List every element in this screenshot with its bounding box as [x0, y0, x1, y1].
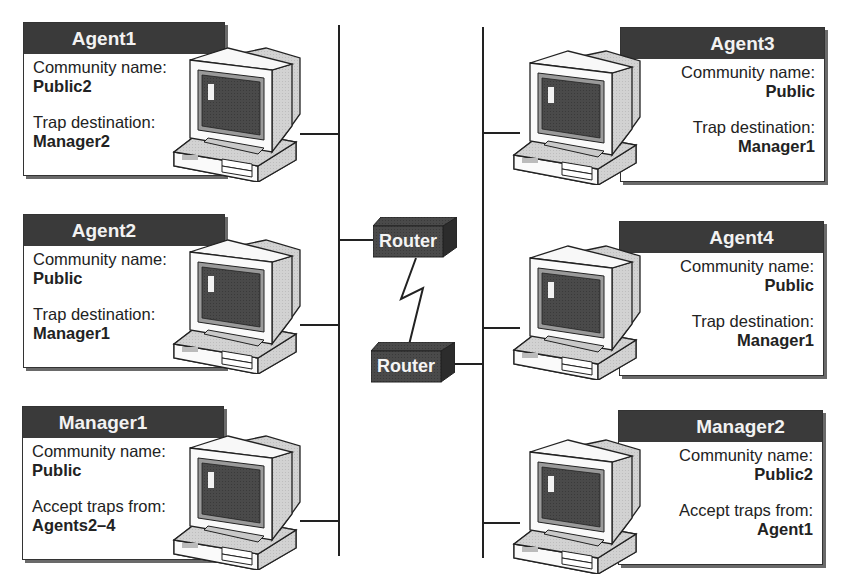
computer-icon: [508, 434, 648, 574]
community-name-value: Public: [630, 82, 815, 101]
community-name-label: Community name:: [630, 63, 815, 82]
router-label: Router: [371, 351, 441, 382]
trap-destination-value: Manager1: [630, 137, 815, 156]
info-box-manager2: Manager2 Community name: Public2 Accept …: [618, 410, 823, 565]
wan-link-zigzag: [401, 258, 423, 353]
computer-icon: [168, 42, 308, 182]
community-name-value: Public2: [628, 465, 813, 484]
computer-icon: [508, 45, 648, 185]
community-name-value: Public: [629, 276, 814, 295]
computer-icon: [168, 430, 308, 570]
node-title: Agent3: [621, 28, 824, 59]
computer-icon: [168, 234, 308, 374]
node-title: Manager2: [619, 411, 822, 442]
accept-traps-value: Agent1: [628, 520, 813, 539]
info-box-agent4: Agent4 Community name: Public Trap desti…: [619, 221, 824, 376]
router-1: Router: [373, 217, 457, 259]
info-box-agent3: Agent3 Community name: Public Trap desti…: [620, 27, 825, 182]
trap-destination-value: Manager1: [629, 331, 814, 350]
node-title: Agent4: [620, 222, 823, 253]
trap-destination-label: Trap destination:: [630, 118, 815, 137]
computer-icon: [508, 240, 648, 380]
trap-destination-label: Trap destination:: [629, 312, 814, 331]
community-name-label: Community name:: [629, 257, 814, 276]
accept-traps-label: Accept traps from:: [628, 501, 813, 520]
community-name-label: Community name:: [628, 446, 813, 465]
router-2: Router: [371, 342, 455, 384]
router-label: Router: [373, 226, 443, 257]
